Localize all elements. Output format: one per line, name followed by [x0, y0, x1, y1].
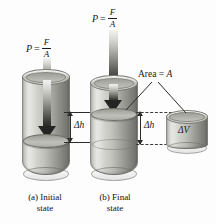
area-leader-to-final-cylinder [126, 82, 152, 110]
pressure-volume-figure: P = F A (a) Initial state P = F A [0, 0, 216, 224]
area-leader-lines [0, 0, 216, 224]
area-leader-to-delta-v-cylinder [158, 82, 186, 113]
